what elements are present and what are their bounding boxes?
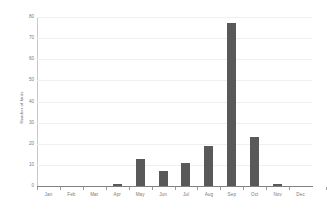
bar-oct <box>250 137 259 186</box>
x-tick-slot <box>220 187 243 190</box>
x-axis-tick-label: Nov <box>266 192 289 204</box>
x-tick-slot <box>129 187 152 190</box>
x-axis-tick-label: Jan <box>37 192 60 204</box>
x-tick-slot <box>175 187 198 190</box>
x-tick-mark <box>129 187 130 190</box>
x-tick-mark <box>37 187 38 190</box>
y-axis-tick-labels: 01020304050607080 <box>16 0 34 215</box>
x-tick-mark <box>152 187 153 190</box>
x-tick-mark <box>197 187 198 190</box>
x-axis-tick-label: Dec <box>289 192 312 204</box>
x-axis-tick-label: May <box>129 192 152 204</box>
x-tick-slot <box>60 187 83 190</box>
x-axis-tick-marks <box>37 187 312 190</box>
x-tick-slot <box>266 187 289 190</box>
x-tick-slot <box>197 187 220 190</box>
x-tick-slot <box>243 187 266 190</box>
y-axis-tick-label: 70 <box>16 36 34 41</box>
x-axis-tick-label: Oct <box>243 192 266 204</box>
x-tick-slot <box>152 187 175 190</box>
x-axis-tick-label: Apr <box>106 192 129 204</box>
bar-slot <box>129 17 152 186</box>
y-axis-tick-label: 10 <box>16 162 34 167</box>
bar-may <box>136 159 145 186</box>
bar-slot <box>220 17 243 186</box>
x-tick-slot <box>37 187 60 190</box>
bar-aug <box>204 146 213 186</box>
x-tick-mark <box>220 187 221 190</box>
y-axis-tick-label: 20 <box>16 141 34 146</box>
y-axis-tick-label: 50 <box>16 78 34 83</box>
x-axis-tick-label: Aug <box>197 192 220 204</box>
x-axis-tick-label: Feb <box>60 192 83 204</box>
x-tick-mark <box>289 187 290 190</box>
bar-slot <box>37 17 60 186</box>
y-axis-tick-label: 30 <box>16 120 34 125</box>
y-axis-tick-label: 0 <box>16 183 34 188</box>
x-axis-tick-labels: JanFebMarAprMayJunJulAugSepOctNovDec <box>37 192 312 204</box>
x-tick-mark <box>243 187 244 190</box>
x-tick-mark <box>60 187 61 190</box>
x-tick-mark <box>266 187 267 190</box>
y-axis-tick-label: 80 <box>16 14 34 19</box>
bar-chart: Number of birds 01020304050607080 JanFeb… <box>0 0 327 215</box>
bar-slot <box>83 17 106 186</box>
bar-slot <box>266 17 289 186</box>
x-axis-tick-label: Jul <box>175 192 198 204</box>
bar-series <box>37 17 312 186</box>
bar-slot <box>289 17 312 186</box>
x-axis-tick-label: Jun <box>152 192 175 204</box>
bar-slot <box>243 17 266 186</box>
x-tick-mark <box>106 187 107 190</box>
x-tick-mark <box>83 187 84 190</box>
bar-jul <box>181 163 190 186</box>
x-tick-slot <box>83 187 106 190</box>
y-axis-tick-label: 60 <box>16 57 34 62</box>
x-tick-slot <box>106 187 129 190</box>
x-axis-tick-label: Sep <box>220 192 243 204</box>
y-axis-tick-label: 40 <box>16 99 34 104</box>
bar-sep <box>227 23 236 186</box>
bar-slot <box>175 17 198 186</box>
bar-jun <box>159 171 168 186</box>
bar-slot <box>60 17 83 186</box>
bar-slot <box>152 17 175 186</box>
x-tick-mark <box>175 187 176 190</box>
bar-slot <box>106 17 129 186</box>
bar-slot <box>197 17 220 186</box>
x-tick-slot <box>289 187 312 190</box>
x-axis-tick-label: Mar <box>83 192 106 204</box>
